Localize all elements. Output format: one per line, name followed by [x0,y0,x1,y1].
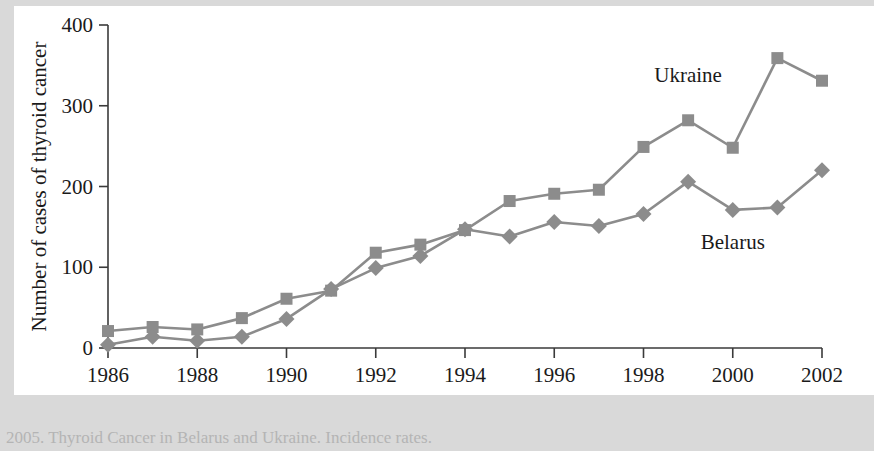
marker-belarus-1986[interactable] [100,337,116,353]
marker-belarus-1990[interactable] [279,311,295,327]
marker-ukraine-2000[interactable] [727,142,739,154]
x-tick-label-1992: 1992 [355,363,397,387]
x-tick-label-2000: 2000 [712,363,754,387]
marker-ukraine-1998[interactable] [638,141,650,153]
y-tick-label-300: 300 [62,94,94,118]
y-tick-label-400: 400 [62,13,94,37]
marker-belarus-1995[interactable] [502,229,518,245]
marker-belarus-1997[interactable] [591,218,607,234]
series-line-ukraine [108,58,822,331]
marker-belarus-1996[interactable] [546,214,562,230]
marker-ukraine-2001[interactable] [771,52,783,64]
figure-container: 0100200300400198619881990199219941996199… [0,0,874,451]
marker-ukraine-1990[interactable] [281,293,293,305]
series-label-belarus: Belarus [701,230,765,254]
x-tick-label-1996: 1996 [533,363,575,387]
chart-plate: 0100200300400198619881990199219941996199… [14,6,874,395]
marker-belarus-1989[interactable] [234,329,250,345]
marker-ukraine-1992[interactable] [370,247,382,259]
series-group [100,52,830,353]
marker-ukraine-1986[interactable] [102,325,114,337]
marker-belarus-2000[interactable] [725,202,741,218]
x-tick-label-2002: 2002 [801,363,843,387]
figure-caption-text: 2005. Thyroid Cancer in Belarus and Ukra… [6,431,432,448]
marker-ukraine-1995[interactable] [504,195,516,207]
figure-caption-strip: 2005. Thyroid Cancer in Belarus and Ukra… [0,431,874,451]
line-chart[interactable]: 0100200300400198619881990199219941996199… [14,6,874,395]
marker-ukraine-1999[interactable] [682,114,694,126]
annotations-group: UkraineBelarus [654,63,765,254]
marker-ukraine-1989[interactable] [236,312,248,324]
series-label-ukraine: Ukraine [654,63,722,87]
x-tick-label-1998: 1998 [623,363,665,387]
x-tick-label-1986: 1986 [87,363,129,387]
y-tick-label-100: 100 [62,255,94,279]
y-tick-label-200: 200 [62,175,94,199]
marker-ukraine-1997[interactable] [593,184,605,196]
marker-ukraine-1996[interactable] [548,188,560,200]
x-tick-label-1994: 1994 [444,363,487,387]
marker-belarus-1992[interactable] [368,260,384,276]
series-line-belarus [108,170,822,344]
y-axis-title: Number of cases of thyroid cancer [27,42,51,332]
x-tick-label-1988: 1988 [176,363,218,387]
x-tick-label-1990: 1990 [266,363,308,387]
y-tick-label-0: 0 [83,336,94,360]
marker-ukraine-2002[interactable] [816,75,828,87]
